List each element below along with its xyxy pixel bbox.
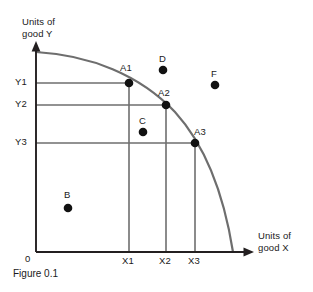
frontier-curve xyxy=(36,52,233,252)
x-axis-arrow xyxy=(244,248,255,257)
point-b xyxy=(64,204,73,213)
x-tick-label-x3: X3 xyxy=(188,255,200,266)
point-label-a2: A2 xyxy=(158,87,170,98)
y-axis-arrow xyxy=(32,41,41,52)
point-label-a1: A1 xyxy=(120,62,132,73)
y-tick-label-y3: Y3 xyxy=(15,136,27,147)
data-points xyxy=(64,66,220,213)
figure-container: Units of good Y Units of good X 0 Y1 Y2 … xyxy=(0,0,313,292)
y-tick-label-y1: Y1 xyxy=(15,76,27,87)
point-label-d: D xyxy=(159,53,166,64)
x-tick-label-x2: X2 xyxy=(159,255,171,266)
point-c xyxy=(139,128,148,137)
x-axis-title: Units of good X xyxy=(258,230,291,253)
point-f xyxy=(211,81,220,90)
point-label-c: C xyxy=(139,115,146,126)
y-axis-title: Units of good Y xyxy=(22,16,55,39)
point-a1 xyxy=(125,79,134,88)
axes xyxy=(32,41,254,256)
point-label-f: F xyxy=(211,68,217,79)
figure-caption: Figure 0.1 xyxy=(13,268,58,279)
point-a2 xyxy=(162,101,171,110)
point-d xyxy=(159,66,168,75)
point-label-b: B xyxy=(64,189,70,200)
x-tick-label-x1: X1 xyxy=(122,255,134,266)
y-tick-label-y2: Y2 xyxy=(15,98,27,109)
point-a3 xyxy=(191,139,200,148)
point-label-a3: A3 xyxy=(194,126,206,137)
origin-label: 0 xyxy=(25,253,30,264)
